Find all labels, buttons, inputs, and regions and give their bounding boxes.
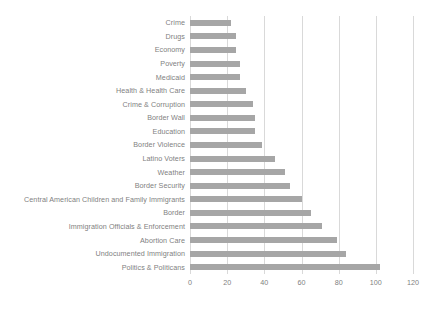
bar-row [190, 260, 413, 274]
y-axis-label: Immigration Officials & Enforcement [69, 220, 185, 234]
bar-row [190, 84, 413, 98]
y-axis-label: Border Wall [147, 111, 185, 125]
y-axis-label: Latino Voters [142, 152, 185, 166]
bar-row [190, 165, 413, 179]
plot-area [190, 16, 413, 274]
x-axis-tick-0: 0 [188, 278, 192, 287]
bar [190, 115, 255, 121]
x-axis-tick-labels: 020406080100120 [190, 274, 413, 290]
y-axis-label: Health & Health Care [116, 84, 185, 98]
bar [190, 264, 380, 270]
bar [190, 251, 346, 257]
y-axis-label: Medicaid [156, 70, 185, 84]
x-axis-tick-80: 80 [335, 278, 343, 287]
bar-row [190, 179, 413, 193]
bar [190, 20, 231, 26]
bar-row [190, 43, 413, 57]
bar-row [190, 193, 413, 207]
bar [190, 183, 290, 189]
bar-row [190, 97, 413, 111]
y-axis-label: Crime & Corruption [123, 97, 185, 111]
x-axis-tick-100: 100 [370, 278, 382, 287]
y-axis-label: Border [163, 206, 185, 220]
y-axis-label: Education [153, 125, 185, 139]
y-axis-category-labels: CrimeDrugsEconomyPovertyMedicaidHealth &… [0, 16, 185, 274]
y-axis-label: Economy [155, 43, 185, 57]
bar-row [190, 138, 413, 152]
bar-row [190, 247, 413, 261]
y-axis-label: Crime [166, 16, 185, 30]
bar-row [190, 30, 413, 44]
bar-chart: CrimeDrugsEconomyPovertyMedicaidHealth &… [0, 0, 442, 311]
y-axis-label: Politics & Politicans [122, 260, 185, 274]
y-axis-label: Central American Children and Family Imm… [24, 193, 185, 207]
bar-row [190, 70, 413, 84]
bar [190, 33, 236, 39]
bar [190, 196, 302, 202]
x-axis-tick-20: 20 [223, 278, 231, 287]
bar [190, 210, 311, 216]
bar-row [190, 125, 413, 139]
y-axis-label: Weather [158, 165, 185, 179]
bar [190, 142, 262, 148]
bar-row [190, 220, 413, 234]
bar [190, 101, 253, 107]
bar-row [190, 206, 413, 220]
bar [190, 237, 337, 243]
bar-row [190, 152, 413, 166]
bar-row [190, 111, 413, 125]
bar [190, 156, 275, 162]
y-axis-label: Border Violence [133, 138, 185, 152]
bar [190, 169, 285, 175]
bar-row [190, 233, 413, 247]
bar-row [190, 16, 413, 30]
y-axis-label: Undocumented Immigration [96, 247, 186, 261]
gridline-120 [413, 16, 414, 274]
bar-series [190, 16, 413, 274]
x-axis-tick-60: 60 [298, 278, 306, 287]
bar [190, 223, 322, 229]
bar [190, 128, 255, 134]
bar [190, 47, 236, 53]
bar-row [190, 57, 413, 71]
x-axis-tick-40: 40 [260, 278, 268, 287]
y-axis-label: Abortion Care [140, 233, 185, 247]
bar [190, 61, 240, 67]
y-axis-label: Drugs [166, 30, 185, 44]
bar [190, 74, 240, 80]
y-axis-label: Border Security [135, 179, 185, 193]
bar [190, 88, 246, 94]
y-axis-label: Poverty [160, 57, 185, 71]
x-axis-tick-120: 120 [407, 278, 419, 287]
